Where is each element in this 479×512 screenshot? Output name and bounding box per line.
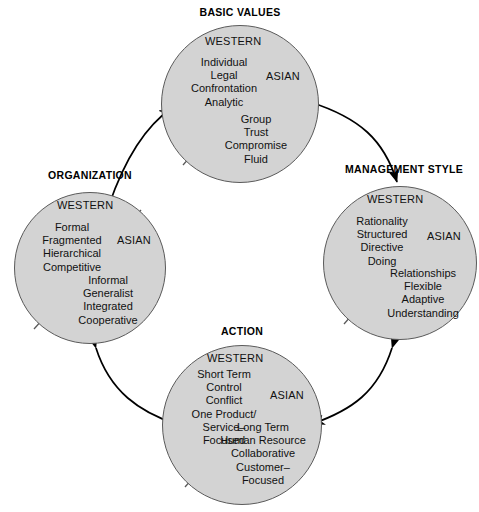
list-item: Analytic bbox=[176, 96, 272, 109]
list-item: Understanding bbox=[371, 307, 475, 320]
list-asian-basic-values: Group Trust Compromise Fluid bbox=[208, 113, 304, 166]
arrow-management-style-action bbox=[312, 348, 392, 424]
list-item: Flexible bbox=[371, 280, 475, 293]
list-western-basic-values: Individual Legal Confrontation Analytic bbox=[176, 56, 272, 109]
list-item: Fragmented bbox=[22, 234, 122, 247]
diagram-canvas: BASIC VALUES WESTERN ASIAN Individual Le… bbox=[0, 0, 479, 512]
list-item: One Product/ bbox=[172, 408, 276, 421]
label-asian-organization: ASIAN bbox=[117, 234, 151, 246]
label-asian-management-style: ASIAN bbox=[427, 230, 461, 242]
list-item: Collaborative bbox=[208, 447, 318, 460]
label-western-organization: WESTERN bbox=[57, 199, 113, 211]
list-item: Conflict bbox=[172, 394, 276, 407]
label-western-basic-values: WESTERN bbox=[205, 35, 261, 47]
list-item: Relationships bbox=[371, 267, 475, 280]
list-western-organization: Formal Fragmented Hierarchical Competiti… bbox=[22, 221, 122, 274]
list-item: Confrontation bbox=[176, 82, 272, 95]
list-item: Structured bbox=[332, 228, 432, 241]
label-western-management-style: WESTERN bbox=[367, 193, 423, 205]
list-item: Human Resource bbox=[208, 434, 318, 447]
list-asian-management-style: Relationships Flexible Adaptive Understa… bbox=[371, 267, 475, 320]
list-item: Long Term bbox=[208, 421, 318, 434]
list-item: Group bbox=[208, 113, 304, 126]
list-item: Formal bbox=[22, 221, 122, 234]
list-asian-organization: Informal Generalist Integrated Cooperati… bbox=[58, 274, 158, 327]
list-item: Integrated bbox=[58, 300, 158, 313]
list-item: Cooperative bbox=[58, 314, 158, 327]
list-item: Legal bbox=[176, 69, 272, 82]
list-item: Informal bbox=[58, 274, 158, 287]
node-title-action: ACTION bbox=[192, 325, 292, 337]
node-title-organization: ORGANIZATION bbox=[30, 169, 150, 181]
list-item: Customer– bbox=[208, 461, 318, 474]
list-item: Doing bbox=[332, 255, 432, 268]
list-item: Fluid bbox=[208, 153, 304, 166]
list-item: Generalist bbox=[58, 287, 158, 300]
list-item: Short Term bbox=[172, 368, 276, 381]
list-item: Focused bbox=[208, 474, 318, 487]
list-item: Control bbox=[172, 381, 276, 394]
label-western-action: WESTERN bbox=[207, 352, 263, 364]
list-item: Hierarchical bbox=[22, 247, 122, 260]
list-item: Adaptive bbox=[371, 293, 475, 306]
node-title-basic-values: BASIC VALUES bbox=[180, 6, 300, 18]
list-item: Individual bbox=[176, 56, 272, 69]
list-item: Compromise bbox=[208, 139, 304, 152]
list-item: Competitive bbox=[22, 261, 122, 274]
list-item: Trust bbox=[208, 126, 304, 139]
list-item: Directive bbox=[332, 241, 432, 254]
node-title-management-style: MANAGEMENT STYLE bbox=[330, 163, 478, 175]
list-asian-action: Long Term Human Resource Collaborative C… bbox=[208, 421, 318, 487]
list-item: Rationality bbox=[332, 215, 432, 228]
list-western-management-style: Rationality Structured Directive Doing bbox=[332, 215, 432, 268]
